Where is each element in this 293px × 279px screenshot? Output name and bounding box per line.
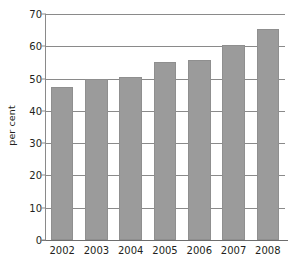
bar-2004 [119, 77, 142, 240]
x-tick-label-2002: 2002 [49, 245, 74, 256]
y-tick-mark-40 [40, 110, 46, 111]
x-axis-line [40, 240, 288, 241]
y-tick-mark-50 [40, 78, 46, 79]
x-tick-label-2008: 2008 [255, 245, 280, 256]
bar-2008 [257, 29, 280, 240]
bar-2003 [85, 79, 108, 240]
plot-area [45, 14, 285, 240]
bar-2002 [51, 87, 74, 240]
y-axis-tick-labels: 010203040506070 [18, 0, 42, 279]
bar-2005 [154, 62, 177, 240]
y-tick-mark-60 [40, 46, 46, 47]
x-tick-label-2005: 2005 [152, 245, 177, 256]
x-tick-label-2004: 2004 [118, 245, 143, 256]
bar-2007 [222, 45, 245, 240]
y-tick-mark-70 [40, 14, 46, 15]
x-tick-label-2007: 2007 [221, 245, 246, 256]
bar-chart-figure: per cent 010203040506070 200220032004200… [0, 0, 293, 279]
bars-layer [45, 14, 285, 240]
x-tick-label-2003: 2003 [84, 245, 109, 256]
y-tick-mark-0 [40, 240, 46, 241]
y-tick-mark-30 [40, 143, 46, 144]
bottom-caption-strip [8, 272, 188, 278]
x-axis-tick-labels: 2002200320042005200620072008 [45, 245, 285, 263]
y-axis-title-text: per cent [6, 105, 17, 145]
bar-2006 [188, 60, 211, 240]
x-tick-label-2006: 2006 [187, 245, 212, 256]
y-tick-mark-20 [40, 175, 46, 176]
y-tick-mark-10 [40, 207, 46, 208]
